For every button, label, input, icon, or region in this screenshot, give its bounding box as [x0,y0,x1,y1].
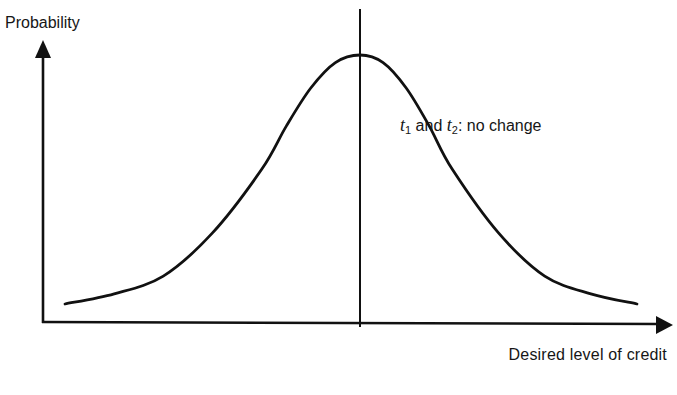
x-axis-arrowhead-icon [656,316,673,334]
x-axis-label: Desired level of credit [509,346,667,364]
annotation-suffix: : no change [458,117,542,134]
probability-curve [65,55,637,304]
bell-curve-diagram [0,0,677,395]
curve-annotation: t1 and t2: no change [400,116,542,135]
x-axis-line [42,322,657,324]
y-axis-label: Probability [5,14,80,32]
annotation-connector: and [411,117,447,134]
y-axis-arrowhead-icon [35,40,51,58]
